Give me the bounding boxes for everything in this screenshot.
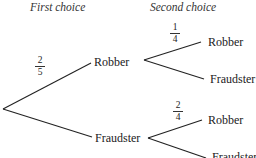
branch-fraudster-robber <box>148 120 202 138</box>
branch-root-robber <box>3 63 91 109</box>
node-level1-fraudster: Fraudster <box>95 132 140 144</box>
fraction-numerator: 2 <box>173 101 183 112</box>
branch-robber-robber <box>144 42 201 60</box>
node-fraudster-fraudster: Fraudster <box>212 151 256 158</box>
fraction-denominator: 4 <box>170 34 180 44</box>
probability-fraudster-robber: 2 4 <box>173 101 183 122</box>
header-first-choice: First choice <box>30 1 85 13</box>
node-robber-fraudster: Fraudster <box>210 73 255 85</box>
branch-fraudster-fraudster <box>148 138 206 158</box>
fraction-denominator: 4 <box>173 112 183 122</box>
header-second-choice: Second choice <box>150 1 216 13</box>
probability-robber-robber: 1 4 <box>170 23 180 44</box>
node-level1-robber: Robber <box>94 56 129 68</box>
node-robber-robber: Robber <box>208 36 243 48</box>
fraction-numerator: 2 <box>35 56 45 67</box>
branch-root-fraudster <box>3 109 92 137</box>
branch-robber-fraudster <box>144 60 204 79</box>
node-fraudster-robber: Robber <box>208 114 243 126</box>
fraction-numerator: 1 <box>170 23 180 34</box>
probability-root-robber: 2 5 <box>35 56 45 77</box>
fraction-denominator: 5 <box>35 67 45 77</box>
